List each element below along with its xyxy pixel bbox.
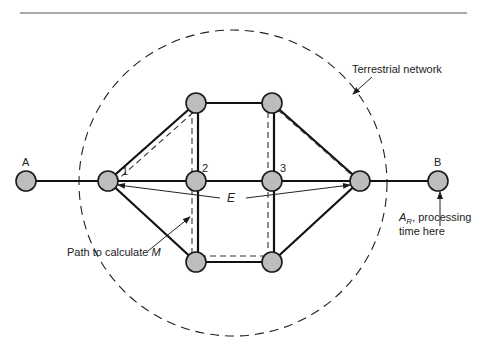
network-diagram: A B 1 2 3 E Terrestrial network Path to … (0, 0, 486, 344)
terrestrial-network-boundary (79, 30, 387, 336)
node-3 (262, 171, 282, 191)
label-B: B (434, 156, 441, 168)
path-M (114, 108, 354, 258)
label-A: A (22, 156, 30, 168)
label-2: 2 (202, 162, 208, 174)
label-ar-processing: AR, processing (398, 211, 471, 226)
node-bottom-right (262, 252, 282, 272)
node-bottom-left (186, 252, 206, 272)
label-1: 1 (122, 165, 128, 177)
node-A (16, 171, 36, 191)
node-1 (98, 171, 118, 191)
terrestrial-arrow (353, 77, 372, 94)
node-B (428, 171, 448, 191)
label-path-to-calculate-m: Path to calculate M (67, 246, 161, 258)
node-hub (350, 171, 370, 191)
label-processing-time-here: time here (399, 225, 445, 237)
label-3: 3 (280, 162, 286, 174)
node-top-right (262, 93, 282, 113)
node-top-left (186, 93, 206, 113)
label-E: E (227, 191, 236, 205)
label-terrestrial-network: Terrestrial network (352, 63, 442, 75)
node-2 (186, 171, 206, 191)
